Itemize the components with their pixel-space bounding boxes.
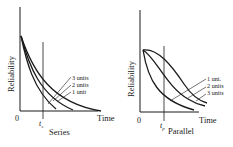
series-title: Series xyxy=(49,127,70,137)
series-legend-1-unit: 1 unit xyxy=(72,88,87,95)
parallel-legend-1-unit: 1 uni. xyxy=(207,75,222,82)
parallel-origin-label: 0 xyxy=(137,116,141,125)
parallel-chart xyxy=(140,10,207,121)
parallel-title: Parallel xyxy=(168,126,195,136)
series-x-axis-label: Time xyxy=(97,113,115,123)
reliability-diagram: 3 units 2 units 1 unit Reliability 0 ts … xyxy=(0,0,233,147)
parallel-curve-1-unit xyxy=(143,50,194,110)
parallel-curve-3-units xyxy=(143,50,207,103)
series-origin-label: 0 xyxy=(15,114,19,123)
parallel-tp-label: tp xyxy=(160,121,165,131)
parallel-x-axis-label: Time xyxy=(199,115,217,125)
series-chart xyxy=(20,7,101,119)
parallel-legend-2-units: 2 units xyxy=(207,82,224,89)
parallel-tp-sub: p xyxy=(161,126,165,131)
series-y-axis-label: Reliability xyxy=(6,55,16,92)
series-curve-1-unit xyxy=(21,36,101,111)
series-leader-1 xyxy=(58,92,71,101)
series-legend-3-units: 3 units xyxy=(72,74,89,81)
parallel-leader-3 xyxy=(196,94,206,101)
parallel-y-axis-label: Reliability xyxy=(126,60,136,97)
series-ts-label: ts xyxy=(39,119,43,129)
parallel-legend-3-units: 3 units xyxy=(207,89,224,96)
series-legend-2-units: 2 units xyxy=(72,81,89,88)
series-ts-sub: s xyxy=(41,124,43,129)
